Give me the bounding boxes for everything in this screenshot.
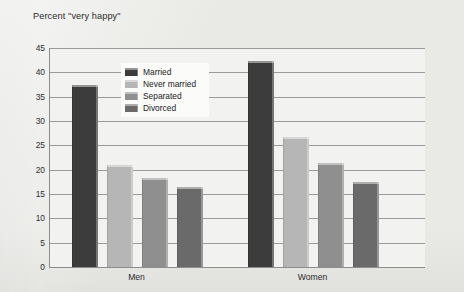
y-axis-tick-label: 40 [11, 67, 45, 77]
bar-bevel-right [272, 61, 274, 267]
chart-legend: MarriedNever marriedSeparatedDivorced [121, 63, 209, 117]
gridline [50, 72, 425, 73]
plot-area [49, 48, 425, 268]
bar-divorced-men [177, 187, 203, 267]
bar-never-married-women [283, 137, 309, 267]
gridline [50, 97, 425, 98]
gridline [50, 48, 425, 49]
bar-bevel-top [142, 178, 168, 180]
legend-swatch-bevel-right [137, 80, 139, 88]
y-axis-tick-label: 5 [11, 238, 45, 248]
bar-bevel-right [131, 165, 133, 267]
chart-title: Percent "very happy" [33, 11, 121, 21]
legend-swatch-icon [125, 92, 138, 100]
bar-bevel-left [177, 187, 178, 267]
y-axis-tick-label: 25 [11, 140, 45, 150]
bar-married-men [72, 85, 98, 267]
bar-bevel-left [142, 178, 143, 267]
y-axis-tick-label: 10 [11, 213, 45, 223]
bar-bevel-left [248, 61, 249, 267]
bar-bevel-right [377, 182, 379, 267]
legend-swatch-bevel-right [137, 104, 139, 112]
legend-item-married: Married [125, 66, 205, 78]
y-axis-tick-label: 20 [11, 165, 45, 175]
bar-bevel-top [283, 137, 309, 139]
bar-never-married-men [107, 165, 133, 267]
x-axis-tick-label-men: Men [128, 272, 145, 282]
bar-bevel-left [283, 137, 284, 267]
legend-label: Separated [143, 92, 182, 100]
legend-swatch-icon [125, 68, 138, 76]
legend-label: Divorced [143, 104, 176, 112]
legend-item-divorced: Divorced [125, 102, 205, 114]
bar-divorced-women [353, 182, 379, 267]
y-axis-tick-label: 35 [11, 92, 45, 102]
y-axis-tick-label: 15 [11, 189, 45, 199]
gridline [50, 145, 425, 146]
legend-swatch-bevel-right [137, 92, 139, 100]
bar-bevel-right [342, 163, 344, 267]
bar-bevel-right [166, 178, 168, 267]
chart-screenshot: Percent "very happy" 051015202530354045 … [0, 0, 464, 292]
legend-label: Married [143, 68, 171, 76]
bar-separated-women [318, 163, 344, 267]
bar-bevel-right [96, 85, 98, 267]
y-axis-tick-label: 0 [11, 262, 45, 272]
legend-item-never-married: Never married [125, 78, 205, 90]
bar-bevel-left [353, 182, 354, 267]
x-axis-tick-label-women: Women [298, 272, 327, 282]
y-axis: 051015202530354045 [9, 48, 45, 267]
gridline [50, 121, 425, 122]
y-axis-tick-label: 45 [11, 43, 45, 53]
bar-bevel-top [318, 163, 344, 165]
bar-bevel-left [72, 85, 73, 267]
legend-item-separated: Separated [125, 90, 205, 102]
plot-inner [50, 48, 425, 267]
bar-bevel-right [307, 137, 309, 267]
y-axis-tick-label: 30 [11, 116, 45, 126]
bar-bevel-top [177, 187, 203, 189]
bar-bevel-top [107, 165, 133, 167]
bar-bevel-top [248, 61, 274, 63]
bar-separated-men [142, 178, 168, 267]
legend-swatch-bevel-right [137, 68, 139, 76]
bar-bevel-left [318, 163, 319, 267]
bar-married-women [248, 61, 274, 267]
legend-swatch-icon [125, 80, 138, 88]
bar-bevel-left [107, 165, 108, 267]
bar-bevel-top [353, 182, 379, 184]
legend-swatch-icon [125, 104, 138, 112]
bar-bevel-top [72, 85, 98, 87]
legend-label: Never married [143, 80, 196, 88]
bar-bevel-right [201, 187, 203, 267]
